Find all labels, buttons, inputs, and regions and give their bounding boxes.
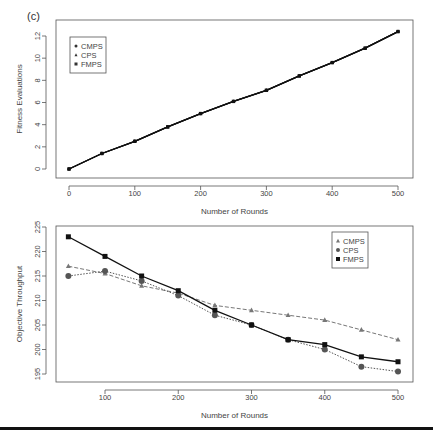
x-axis-label: Number of Rounds <box>201 207 268 216</box>
y-axis: 024681012 <box>33 32 46 171</box>
y-tick-label: 10 <box>33 54 42 62</box>
svg-text:CMPS: CMPS <box>343 237 365 246</box>
y-tick-label: 6 <box>33 100 42 104</box>
series-fmps <box>67 30 399 171</box>
legend: CMPSCPSFMPS <box>332 232 368 268</box>
y-tick-label: 195 <box>33 368 42 381</box>
svg-text:CPS: CPS <box>81 51 96 60</box>
x-tick-label: 500 <box>392 393 405 402</box>
y-axis: 195200205210215220225 <box>33 221 46 381</box>
y-axis-label: Objective Throughput <box>15 265 24 342</box>
y-tick-label: 8 <box>33 78 42 82</box>
svg-text:FMPS: FMPS <box>81 60 102 69</box>
x-tick-label: 400 <box>326 189 339 198</box>
y-tick-label: 210 <box>33 294 42 307</box>
svg-text:CPS: CPS <box>343 246 358 255</box>
svg-text:CMPS: CMPS <box>81 42 103 51</box>
y-tick-label: 205 <box>33 319 42 332</box>
series-cmps <box>66 263 401 341</box>
bottom-divider-rule <box>0 427 433 430</box>
y-tick-label: 2 <box>33 145 42 149</box>
x-tick-label: 500 <box>392 189 405 198</box>
x-tick-label: 100 <box>99 393 112 402</box>
plot-frame <box>56 20 413 178</box>
x-axis: 100200300400500 <box>99 390 405 402</box>
x-tick-label: 400 <box>318 393 331 402</box>
x-tick-label: 0 <box>67 189 71 198</box>
y-tick-label: 200 <box>33 343 42 356</box>
y-tick-label: 0 <box>33 167 42 171</box>
x-tick-label: 300 <box>260 189 273 198</box>
legend: CMPSCPSFMPS <box>70 37 106 73</box>
throughput-plot: 195200205210215220225Objective Throughpu… <box>15 221 413 420</box>
series-cps <box>65 268 401 374</box>
y-axis-label: Fitness Evaluations <box>15 64 24 133</box>
x-axis: 0100200300400500 <box>67 186 404 198</box>
x-tick-label: 300 <box>245 393 258 402</box>
y-tick-label: 225 <box>33 221 42 234</box>
x-axis-label: Number of Rounds <box>201 411 268 420</box>
fitness-plot: 024681012Fitness Evaluations010020030040… <box>15 20 413 216</box>
figure-canvas: 024681012Fitness Evaluations010020030040… <box>0 0 433 437</box>
y-tick-label: 12 <box>33 32 42 40</box>
y-tick-label: 215 <box>33 270 42 283</box>
y-tick-label: 220 <box>33 245 42 258</box>
x-tick-label: 100 <box>129 189 142 198</box>
x-tick-label: 200 <box>172 393 185 402</box>
svg-text:FMPS: FMPS <box>343 255 364 264</box>
y-tick-label: 4 <box>33 123 42 127</box>
x-tick-label: 200 <box>194 189 207 198</box>
